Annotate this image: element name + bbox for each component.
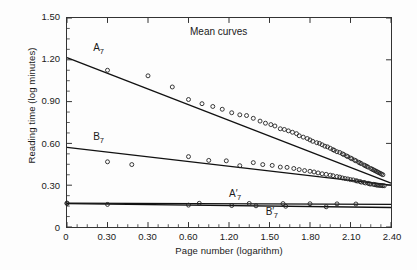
y-tick-label-3: 0.90 bbox=[26, 96, 60, 106]
data-point-B7 bbox=[278, 165, 282, 169]
data-point-A7 bbox=[269, 123, 273, 127]
y-tick-label-2: 0.60 bbox=[26, 139, 60, 149]
data-point-B7 bbox=[292, 166, 296, 170]
data-point-A7 bbox=[301, 135, 305, 139]
data-point-B7 bbox=[270, 163, 274, 167]
fit-line-A7 bbox=[67, 58, 391, 183]
series-label-B'7: B′7 bbox=[266, 207, 278, 221]
data-point-B7 bbox=[308, 169, 312, 173]
data-point-B7 bbox=[324, 172, 328, 176]
x-tick-label-4: 1.20 bbox=[209, 232, 249, 242]
y-tick-label-5: 1.50 bbox=[26, 12, 60, 22]
data-point-B7 bbox=[251, 161, 255, 165]
data-point-A7 bbox=[230, 111, 234, 115]
data-point-A7 bbox=[220, 107, 224, 111]
data-point-B7 bbox=[130, 163, 134, 167]
data-point-B7 bbox=[187, 155, 191, 159]
x-tick-label-1: 0.30 bbox=[87, 232, 127, 242]
data-point-B7 bbox=[224, 159, 228, 163]
y-tick-label-1: 0.30 bbox=[26, 181, 60, 191]
x-axis-tick-labels: 00.300.300.601.201.501.802.102.40 bbox=[0, 232, 417, 246]
data-point-B7 bbox=[106, 160, 110, 164]
x-tick-label-0: 0 bbox=[46, 232, 86, 242]
x-tick-label-3: 0.60 bbox=[168, 232, 208, 242]
data-point-A7 bbox=[245, 114, 249, 118]
series-label-B7: B7 bbox=[93, 132, 104, 146]
data-point-A7 bbox=[211, 104, 215, 108]
y-tick-label-4: 1.20 bbox=[26, 54, 60, 64]
data-point-A7 bbox=[187, 98, 191, 102]
data-point-B7 bbox=[316, 171, 320, 175]
data-point-B7 bbox=[303, 169, 307, 173]
data-point-B7 bbox=[331, 174, 335, 178]
data-point-A7 bbox=[200, 102, 204, 106]
data-point-B7 bbox=[207, 158, 211, 162]
data-point-B7 bbox=[297, 168, 301, 172]
series-label-A'7: A′7 bbox=[229, 189, 241, 203]
y-axis-tick-labels: 00.300.600.901.201.50 bbox=[26, 0, 60, 270]
data-point-A7 bbox=[282, 127, 286, 131]
x-tick-label-7: 2.10 bbox=[331, 232, 371, 242]
x-tick-label-6: 1.80 bbox=[291, 232, 331, 242]
data-point-A7 bbox=[297, 134, 301, 138]
data-point-A7 bbox=[273, 124, 277, 128]
data-point-A7 bbox=[295, 132, 299, 136]
data-point-B7 bbox=[261, 163, 265, 167]
data-point-A7 bbox=[290, 130, 294, 134]
x-axis-title: Page number (logarithm) bbox=[66, 245, 392, 256]
data-point-B7 bbox=[312, 170, 316, 174]
data-point-B7 bbox=[320, 172, 324, 176]
data-point-A7 bbox=[286, 129, 290, 133]
data-point-A7 bbox=[278, 127, 282, 131]
data-point-B7 bbox=[285, 165, 289, 169]
data-point-A7 bbox=[146, 74, 150, 78]
data-point-A7 bbox=[315, 141, 319, 145]
chart-figure: Mean curves Reading time (log minutes) P… bbox=[0, 0, 417, 270]
data-point-A7 bbox=[238, 113, 242, 117]
data-point-A7 bbox=[106, 68, 110, 72]
x-tick-label-2: 0.30 bbox=[128, 232, 168, 242]
x-tick-label-8: 2.40 bbox=[372, 232, 412, 242]
data-point-A7 bbox=[263, 121, 267, 125]
x-tick-label-5: 1.50 bbox=[250, 232, 290, 242]
data-point-A7 bbox=[258, 119, 262, 123]
series-label-A7: A7 bbox=[93, 43, 104, 57]
data-point-A7 bbox=[170, 85, 174, 89]
data-point-A7 bbox=[251, 116, 255, 120]
